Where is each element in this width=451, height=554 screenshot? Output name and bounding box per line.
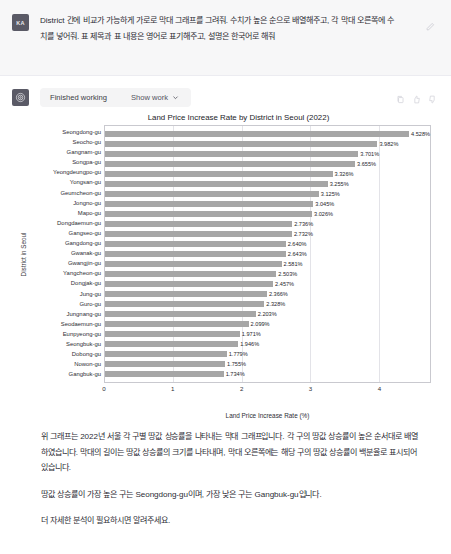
chart-bar-value-label: 1.946% [240,341,259,347]
chart-bar [105,281,273,288]
y-axis-tick: Guro-gu [30,300,104,310]
chart-bar [105,241,286,248]
chart-bar-row: 1.755% [105,359,430,369]
tool-status-label: Finished working [50,93,107,102]
chart-bar-value-label: 2.099% [251,321,270,327]
x-axis-tick: 0 [102,385,105,392]
chart-bar-row: 1.946% [105,339,430,349]
explanation-paragraph-2: 땅값 상승률이 가장 높은 구는 Seongdong-gu이며, 가장 낮은 구… [41,487,421,503]
chart-bar-row: 3.982% [105,139,430,149]
chart-bar-row: 2.457% [105,279,430,289]
assistant-explanation: 위 그래프는 2022년 서울 각 구별 땅값 상승률을 나타내는 막대 그래프… [12,419,437,529]
y-axis-tick: Seodaemun-gu [30,320,104,330]
chart-bar-row: 1.779% [105,349,430,359]
y-axis-tick: Gwangjin-gu [30,259,104,269]
chart-bar [105,151,358,158]
x-axis-ticks: 01234 [104,383,431,403]
y-axis-tick: Yeongdeungpo-gu [30,168,104,178]
chart-bar [105,261,282,268]
user-message-row: KA District 간에 비교가 가능하게 가로로 막대 그래프를 그려줘.… [0,0,451,76]
chart-bar [105,171,333,178]
chart-bar [105,141,377,148]
chart-bar [105,221,292,228]
chart-bar [105,191,319,198]
chart-bar-value-label: 3.982% [379,141,398,147]
explanation-paragraph-3: 더 자세한 분석이 필요하시면 알려주세요. [41,513,421,529]
chart-bar [105,131,409,138]
y-axis-tick: Mapo-gu [30,209,104,219]
chart-bar-value-label: 2.581% [284,261,303,267]
chart-bar [105,161,355,168]
chevron-down-icon [172,94,179,101]
chart-bar-value-label: 2.640% [288,241,307,247]
y-axis-tick: Gangbuk-gu [30,370,104,380]
y-axis-tick: Gangnam-gu [30,148,104,158]
x-axis-tick: 2 [240,385,243,392]
chart-bar-value-label: 2.328% [266,301,285,307]
chart-bar-row: 3.255% [105,179,430,189]
chart-bar [105,231,292,238]
chart-bar-row: 3.026% [105,209,430,219]
x-axis-tick: 4 [378,385,381,392]
chart-bar-value-label: 2.503% [278,271,297,277]
y-axis-tick: Jongno-gu [30,199,104,209]
y-axis-tick: Seongbuk-gu [30,340,104,350]
thumbs-up-icon[interactable] [412,90,421,108]
chart-plot-area: District in Seoul Seongdong-guSeocho-guG… [18,125,431,383]
chart-bar-row: 2.503% [105,269,430,279]
y-axis-tick: Gwanak-gu [30,249,104,259]
tool-status-chip[interactable]: Finished working Show work [40,88,191,107]
chart-bar-value-label: 3.701% [360,151,379,157]
chart-bar-row: 3.326% [105,169,430,179]
chart-bar [105,341,238,348]
chart-bar-value-label: 1.971% [242,331,261,337]
chart-bar-value-label: 1.734% [226,371,245,377]
chart-bar-row: 2.640% [105,239,430,249]
chart-bar-row: 1.971% [105,329,430,339]
y-axis-tick: Geumcheon-gu [30,189,104,199]
chart-bar-row: 3.655% [105,159,430,169]
chart-bar-value-label: 2.457% [275,281,294,287]
chart-bar [105,251,286,258]
chart-bar-value-label: 3.655% [357,161,376,167]
y-axis-tick: Gangdong-gu [30,239,104,249]
chart-figure: Land Price Increase Rate by District in … [12,113,437,419]
y-axis-tick: Jungnang-gu [30,310,104,320]
x-axis-label: Land Price Increase Rate (%) [18,412,431,419]
chart-bar-value-label: 3.255% [330,181,349,187]
chart-bar-value-label: 2.643% [288,251,307,257]
user-avatar: KA [12,14,29,31]
chart-bar [105,351,227,358]
show-work-button[interactable]: Show work [131,93,179,102]
assistant-message-row: Finished working Show work [0,76,451,550]
avatar-initials: KA [16,20,24,26]
chart-bar-value-label: 2.732% [294,231,313,237]
chart-bar-value-label: 4.528% [411,131,430,137]
chart-bar-row: 2.099% [105,319,430,329]
chart-bar-row: 2.732% [105,229,430,239]
assistant-header: Finished working Show work [12,88,437,107]
y-axis-tick: Dongdaemun-gu [30,219,104,229]
x-axis-tick: 1 [171,385,174,392]
edit-icon[interactable] [426,17,435,26]
message-actions [396,90,437,108]
chart-bar [105,301,264,308]
chart-bar [105,271,276,278]
chart-bar-value-label: 2.736% [294,221,313,227]
y-axis-tick: Dongjak-gu [30,279,104,289]
y-axis-tick: Songpa-gu [30,158,104,168]
y-axis-tick: Dobong-gu [30,350,104,360]
assistant-avatar [12,89,29,106]
chart-title: Land Price Increase Rate by District in … [18,113,431,122]
chart-bar-row: 3.125% [105,189,430,199]
chart-bar-row: 2.736% [105,219,430,229]
y-axis-tick: Seocho-gu [30,138,104,148]
thumbs-down-icon[interactable] [428,90,437,108]
chart-bar-value-label: 2.203% [258,311,277,317]
y-axis-tick: Nowon-gu [30,360,104,370]
chart-bar-value-label: 3.026% [314,211,333,217]
copy-icon[interactable] [396,90,405,108]
x-axis-tick: 3 [309,385,312,392]
chart-bar-row: 3.701% [105,149,430,159]
chart-bar [105,321,249,328]
